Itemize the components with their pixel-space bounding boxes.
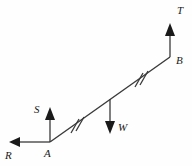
- vector-label-s: S: [34, 104, 40, 115]
- point-label-b: B: [176, 55, 183, 66]
- vector-label-t: T: [177, 5, 183, 16]
- geometry-figure: A B R S W T: [0, 0, 192, 166]
- vector-t: [165, 23, 175, 57]
- tick-mark-upper: [135, 71, 148, 87]
- figure-canvas: [0, 0, 192, 166]
- point-label-a: A: [44, 148, 51, 159]
- vector-label-w: W: [118, 122, 127, 133]
- vector-r: [9, 137, 50, 147]
- vector-w: [105, 99, 115, 134]
- vector-s: [45, 107, 55, 142]
- vector-label-r: R: [5, 150, 12, 161]
